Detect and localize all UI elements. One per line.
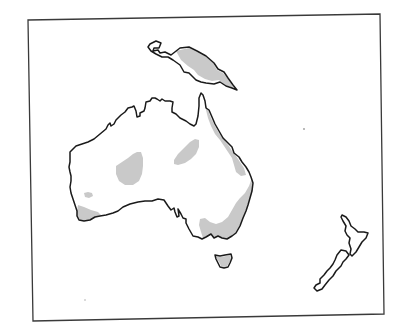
landmass-new-zealand-north-island xyxy=(341,215,368,256)
speck-east xyxy=(303,128,305,130)
new-zealand-south-island-land-fill xyxy=(314,250,349,291)
new-zealand-north-island-land-fill xyxy=(341,215,368,256)
landmass-australia xyxy=(69,93,253,239)
landmass-new-zealand-south-island xyxy=(314,250,349,291)
landmass-tasmania xyxy=(215,254,232,268)
speck-southwest xyxy=(84,299,85,300)
landmass-new-guinea xyxy=(148,41,237,90)
landmass-layer xyxy=(69,41,368,291)
map-container xyxy=(0,0,403,330)
oceania-map xyxy=(0,0,403,330)
